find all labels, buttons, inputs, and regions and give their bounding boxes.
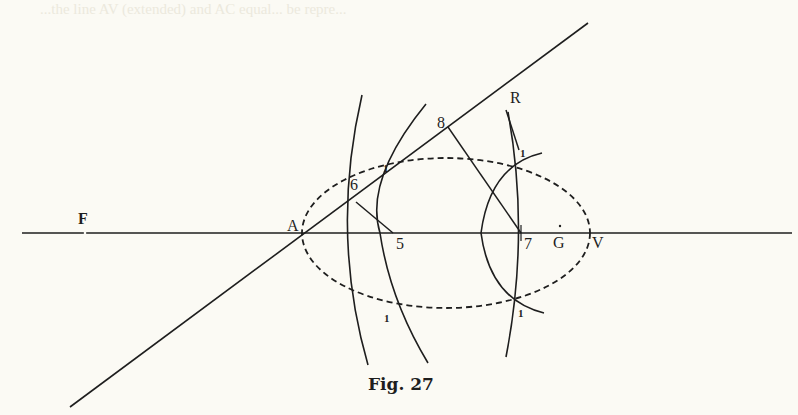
label-F: F [78, 210, 88, 227]
segment-6-5 [356, 202, 393, 233]
point-F-mark [84, 232, 87, 235]
diagonal-line [70, 23, 588, 407]
arc-left-a [347, 95, 368, 365]
figure-caption: Fig. 27 [368, 374, 434, 394]
label-5: 5 [396, 235, 404, 252]
arc-mark-top-left: 1 [383, 162, 389, 174]
label-7: 7 [524, 235, 532, 252]
bleed-through-text: ...the line AV (extended) and AC equal..… [40, 1, 346, 18]
arc-mark-bottom-left: 1 [384, 312, 390, 324]
label-R: R [510, 89, 521, 106]
geometry-figure: ...the line AV (extended) and AC equal..… [0, 0, 798, 415]
point-G-mark [559, 225, 561, 227]
label-8: 8 [437, 114, 445, 131]
diagram-page: ...the line AV (extended) and AC equal..… [0, 0, 798, 415]
label-V: V [592, 234, 604, 251]
label-G: G [553, 234, 565, 251]
label-6: 6 [350, 176, 358, 193]
label-A: A [287, 217, 299, 234]
arc-mark-top-right: 1 [520, 147, 526, 159]
arc-mark-bottom-right: 1 [518, 307, 524, 319]
arc-right-vertical [506, 112, 519, 357]
